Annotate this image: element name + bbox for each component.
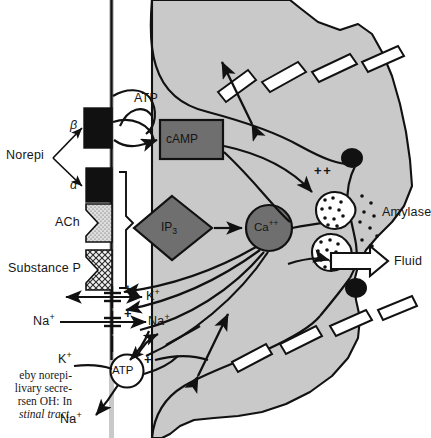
ip3-text: IP bbox=[161, 220, 172, 234]
caption-line-4: stinal tract, bbox=[0, 408, 72, 421]
ip3-label: IP3 bbox=[161, 220, 177, 234]
atp-top-label: ATP bbox=[134, 91, 158, 105]
plus-sign-k-channel: + bbox=[124, 281, 132, 296]
substance-p-label: Substance P bbox=[8, 261, 81, 275]
sodium-outside-label: Na+ bbox=[33, 314, 55, 328]
norepi-branch-lines bbox=[50, 124, 110, 204]
plus-sign-atp-pump: + bbox=[144, 352, 152, 367]
na-in-charge: + bbox=[164, 312, 169, 322]
k-bottom-text: K bbox=[58, 352, 67, 366]
sodium-inside-label: Na+ bbox=[148, 314, 170, 328]
ach-label: ACh bbox=[55, 215, 80, 229]
plus-sign-na-channel: + bbox=[124, 306, 132, 321]
plus-sign-exocytosis: + + bbox=[314, 163, 330, 178]
amylase-label: Amylase bbox=[382, 205, 431, 219]
calcium-text: Ca bbox=[254, 221, 269, 233]
caption-line-2: livary secre- bbox=[0, 382, 72, 395]
na-in-text: Na bbox=[148, 314, 164, 328]
na-bottom-charge: + bbox=[76, 410, 81, 420]
k-bottom-charge: + bbox=[67, 350, 72, 360]
caption-line-1: eby norepi- bbox=[0, 369, 72, 382]
k-in-text: K bbox=[146, 289, 155, 303]
norepi-label: Norepi bbox=[6, 148, 44, 162]
na-out-charge: + bbox=[49, 312, 54, 322]
receptor-coupling-bracket bbox=[119, 172, 133, 288]
potassium-bottom-label: K+ bbox=[58, 352, 72, 366]
na-out-text: Na bbox=[33, 314, 49, 328]
ach-receptor-block bbox=[86, 204, 112, 242]
camp-label: cAMP bbox=[166, 132, 198, 146]
potassium-inside-label: K+ bbox=[146, 289, 160, 303]
ip3-subscript: 3 bbox=[172, 226, 177, 236]
k-in-charge: + bbox=[155, 287, 160, 297]
calcium-label: Ca++ bbox=[254, 221, 278, 233]
caption-line-3: rsen OH: In bbox=[0, 395, 72, 408]
calcium-charge: ++ bbox=[269, 219, 279, 228]
substance-p-receptor-block bbox=[86, 250, 112, 290]
fluid-label: Fluid bbox=[394, 254, 422, 268]
atp-bottom-label: ATP bbox=[112, 364, 134, 376]
